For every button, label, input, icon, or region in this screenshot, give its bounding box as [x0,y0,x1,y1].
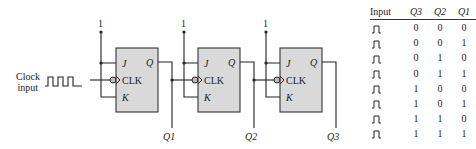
svg-text:CLK: CLK [122,75,143,86]
svg-text:1: 1 [181,18,186,29]
inversion-bubble-icon [110,77,116,83]
svg-text:input: input [17,82,38,93]
svg-text:Q1: Q1 [163,131,175,142]
table-header: Input Q3 Q2 Q1 [370,4,476,20]
svg-text:J: J [122,58,127,69]
table-row: 001 [370,35,476,50]
table-row: 010 [370,50,476,65]
table-row: 111 [370,126,476,141]
clock-waveform-icon [45,77,82,86]
svg-text:Clock: Clock [16,71,40,82]
svg-text:K: K [121,92,130,103]
table-row: 100 [370,81,476,96]
table-row: 110 [370,111,476,126]
table-row: 101 [370,96,476,111]
svg-text:Q: Q [146,57,154,68]
svg-text:K: K [203,92,212,103]
svg-text:K: K [285,92,294,103]
svg-text:J: J [204,58,209,69]
svg-text:1: 1 [263,18,268,29]
svg-text:J: J [286,58,291,69]
svg-text:CLK: CLK [286,75,307,86]
table-row: 011 [370,66,476,81]
truth-table: Input Q3 Q2 Q1 000 001 010 011 100 101 1… [370,4,476,142]
svg-text:CLK: CLK [204,75,225,86]
svg-text:Q: Q [228,57,236,68]
table-row: 000 [370,20,476,35]
svg-text:Q: Q [310,57,318,68]
svg-text:Q3: Q3 [327,131,339,142]
svg-text:Q2: Q2 [245,131,257,142]
svg-text:1: 1 [98,18,103,29]
